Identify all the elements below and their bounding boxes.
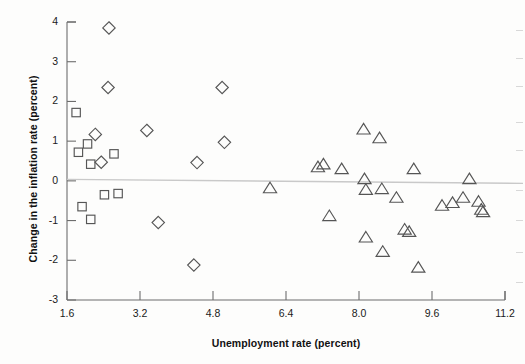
marker-triangle — [373, 132, 386, 143]
marker-triangle — [390, 192, 403, 203]
marker-triangle — [335, 163, 348, 174]
marker-triangle — [472, 196, 485, 207]
zero-line — [67, 179, 523, 183]
data-markers — [72, 22, 490, 272]
marker-square — [100, 191, 108, 199]
marker-triangle — [456, 192, 469, 203]
series-diamonds — [89, 22, 231, 271]
series-squares — [72, 108, 122, 223]
marker-square — [87, 160, 95, 168]
marker-triangle — [359, 231, 372, 242]
axes — [67, 22, 505, 300]
marker-diamond — [152, 216, 164, 228]
y-axis-ticks — [67, 22, 76, 300]
marker-triangle — [317, 158, 330, 169]
marker-diamond — [218, 136, 230, 148]
marker-diamond — [102, 81, 114, 93]
marker-diamond — [103, 22, 115, 34]
marker-diamond — [141, 124, 153, 136]
series-triangles — [263, 123, 489, 272]
marker-triangle — [375, 183, 388, 194]
marker-triangle — [463, 173, 476, 184]
marker-square — [114, 189, 122, 197]
marker-triangle — [357, 123, 370, 134]
marker-square — [83, 140, 91, 148]
marker-diamond — [89, 128, 101, 140]
scatter-plot-figure: Change in the inflation rate (percent) U… — [0, 0, 525, 364]
page-edge-artifacts — [513, 30, 523, 330]
plot-canvas — [0, 0, 525, 364]
marker-triangle — [263, 182, 276, 193]
marker-triangle — [412, 262, 425, 273]
marker-triangle — [323, 210, 336, 221]
marker-diamond — [95, 156, 107, 168]
marker-triangle — [376, 246, 389, 257]
marker-square — [110, 150, 118, 158]
marker-triangle — [359, 184, 372, 195]
marker-triangle — [435, 200, 448, 211]
marker-diamond — [188, 259, 200, 271]
marker-square — [74, 148, 82, 156]
marker-diamond — [216, 81, 228, 93]
x-axis-ticks — [67, 291, 505, 300]
marker-triangle — [407, 163, 420, 174]
marker-diamond — [191, 156, 203, 168]
marker-square — [87, 215, 95, 223]
marker-square — [72, 108, 80, 116]
marker-square — [78, 202, 86, 210]
zero-reference-line — [67, 179, 523, 183]
